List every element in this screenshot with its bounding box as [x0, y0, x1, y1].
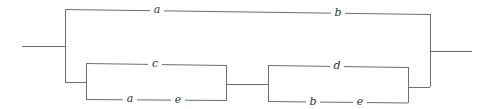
left-block-label-a: a — [127, 92, 134, 105]
left-block-label-c: c — [152, 57, 158, 70]
top-branch-wire — [65, 10, 430, 15]
left-block-label-e: e — [175, 93, 182, 106]
right-block-label-d: d — [333, 59, 340, 72]
left-parallel-block: c a e — [86, 57, 227, 107]
top-label-b: b — [334, 6, 341, 19]
top-label-a: a — [154, 3, 161, 16]
switching-network-diagram: a b c a e d b e — [0, 0, 493, 109]
right-block-label-e: e — [357, 95, 364, 108]
right-parallel-block: d b e — [268, 59, 409, 109]
right-block-label-b: b — [309, 95, 316, 108]
